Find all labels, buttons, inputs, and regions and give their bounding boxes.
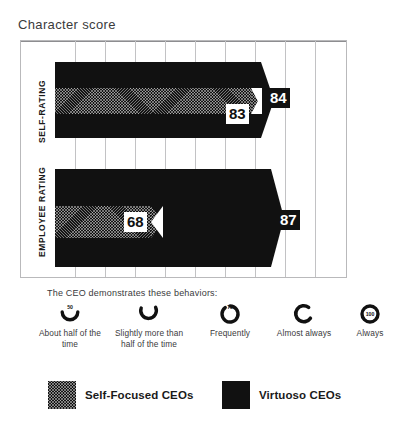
legend-item-virtuoso[interactable]: Virtuoso CEOs: [222, 381, 341, 409]
scale-caption: The CEO demonstrates these behaviors:: [47, 288, 217, 298]
legend-swatch-hatch-icon: [48, 381, 76, 409]
axis-top-line: [21, 41, 346, 42]
gridline: [285, 41, 286, 277]
gauge-60-icon: [136, 303, 162, 325]
scale-step-100: 100 Always: [336, 303, 400, 339]
value-label-84: 84: [267, 88, 290, 108]
value-label-83: 83: [226, 104, 249, 124]
gauge-100-value: 100: [357, 303, 383, 325]
gridline: [315, 41, 316, 277]
category-label-self-rating: SELF-RATING: [37, 80, 47, 143]
gauge-75-icon: 75: [217, 303, 243, 325]
legend-swatch-solid-icon: [222, 381, 250, 409]
scale-step-88: Almost always: [266, 303, 342, 339]
scale-row: 50 About half of the time Slightly more …: [20, 303, 390, 365]
bar-self-focused-self-rating[interactable]: [55, 88, 251, 114]
scale-step-label: Always: [336, 328, 400, 339]
gauge-60-value: [136, 303, 162, 325]
scale-step-75: 75 Frequently: [192, 303, 268, 339]
page-title: Character score: [18, 17, 116, 32]
scale-step-label: Almost always: [266, 328, 342, 339]
scale-step-label: Slightly more than half of the time: [108, 328, 190, 350]
gauge-50-value: 50: [57, 303, 83, 325]
scale-step-label: About half of the time: [32, 328, 108, 350]
chart-canvas: Character score SELF-RATING EMPLOYEE RAT…: [0, 0, 400, 447]
scale-step-60: Slightly more than half of the time: [108, 303, 190, 350]
gauge-75-value: 75: [217, 303, 243, 325]
gauge-100-icon: 100: [357, 303, 383, 325]
scale-step-50: 50 About half of the time: [32, 303, 108, 350]
gauge-88-icon: [291, 303, 317, 325]
value-label-87: 87: [277, 210, 300, 230]
category-label-employee-rating: EMPLOYEE RATING: [37, 166, 47, 257]
gauge-50-icon: 50: [57, 303, 83, 325]
gauge-88-value: [291, 303, 317, 325]
scale-step-label: Frequently: [192, 328, 268, 339]
legend-label: Self-Focused CEOs: [85, 389, 193, 401]
value-label-68: 68: [124, 212, 147, 232]
legend: Self-Focused CEOs Virtuoso CEOs: [0, 381, 400, 421]
legend-item-self-focused[interactable]: Self-Focused CEOs: [48, 381, 193, 409]
legend-label: Virtuoso CEOs: [259, 389, 341, 401]
